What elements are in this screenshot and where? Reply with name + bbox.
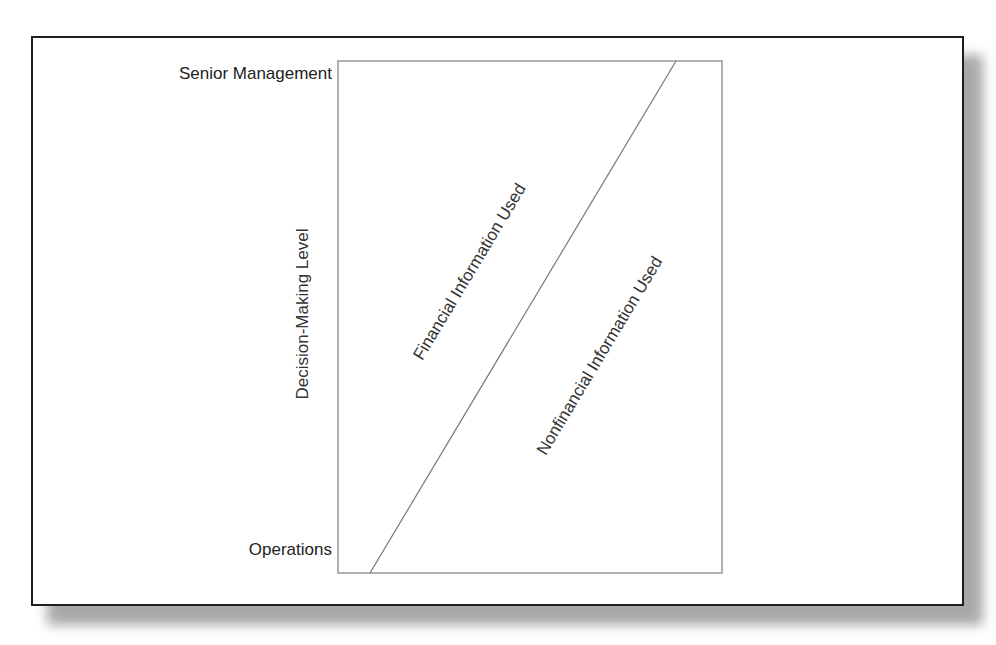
level-box — [338, 61, 722, 573]
y-axis-label: Decision-Making Level — [293, 224, 313, 404]
top-level-label: Senior Management — [179, 64, 332, 84]
diagram-canvas — [0, 0, 996, 645]
bottom-level-label: Operations — [249, 540, 332, 560]
